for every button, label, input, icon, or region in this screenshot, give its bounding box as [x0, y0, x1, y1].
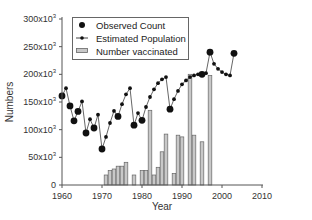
bar — [200, 142, 204, 185]
estimated-point — [144, 105, 148, 109]
chart: 196019701980199020002010 050x103100x1031… — [0, 0, 312, 220]
observed-point — [131, 122, 138, 129]
bar — [156, 167, 160, 185]
estimated-point — [96, 113, 100, 117]
estimated-point — [184, 79, 188, 83]
observed-point — [99, 146, 106, 153]
estimated-point — [224, 72, 228, 76]
bar — [124, 162, 128, 185]
y-axis-title: Numbers — [4, 82, 15, 123]
bar — [208, 75, 212, 185]
estimated-point — [148, 95, 152, 99]
bars-number-vaccinated — [104, 74, 212, 185]
estimated-point — [80, 100, 84, 104]
estimated-point — [120, 102, 124, 106]
x-axis-ticks: 196019701980199020002010 — [52, 185, 272, 201]
observed-point — [83, 130, 90, 137]
bar — [188, 74, 192, 185]
bar — [164, 134, 168, 185]
estimated-point — [164, 75, 168, 79]
bar — [104, 175, 108, 185]
observed-point — [67, 103, 74, 110]
legend-estimated-marker-icon — [80, 36, 84, 40]
x-tick-label: 1980 — [132, 191, 152, 201]
observed-point — [75, 108, 82, 115]
y-tick-label: 200x103 — [23, 68, 57, 79]
estimated-point — [136, 111, 140, 115]
x-tick-label: 1970 — [92, 191, 112, 201]
estimated-point — [64, 86, 68, 90]
bar — [172, 173, 176, 185]
estimated-point — [156, 81, 160, 85]
y-tick-label: 300x103 — [23, 13, 57, 24]
x-tick-label: 1960 — [52, 191, 72, 201]
estimated-point — [160, 77, 164, 81]
estimated-point — [176, 89, 180, 93]
bar — [160, 152, 164, 185]
bar — [148, 110, 152, 185]
estimated-point — [108, 121, 112, 125]
estimated-point — [192, 74, 196, 78]
legend: Observed Count Estimated Population Numb… — [73, 18, 189, 60]
bar — [120, 166, 124, 185]
estimated-point — [216, 67, 220, 71]
legend-label-estimated: Estimated Population — [96, 33, 186, 44]
y-tick-label: 50x103 — [28, 151, 57, 162]
bar — [180, 137, 184, 185]
legend-observed-marker-icon — [79, 22, 85, 28]
observed-point — [91, 125, 98, 132]
y-axis-ticks: 050x103100x103150x103200x103250x103300x1… — [23, 13, 62, 190]
x-tick-label: 2010 — [252, 191, 272, 201]
observed-point — [115, 113, 122, 120]
bar — [152, 175, 156, 185]
observed-point — [71, 117, 78, 124]
legend-label-vaccinated: Number vaccinated — [96, 46, 178, 57]
observed-point — [231, 50, 238, 57]
bar — [144, 171, 148, 185]
estimated-point — [124, 92, 128, 96]
estimated-point — [88, 117, 92, 121]
observed-point — [199, 71, 206, 78]
y-tick-label: 250x103 — [23, 41, 57, 52]
estimated-point — [212, 62, 216, 66]
estimated-point — [228, 74, 232, 78]
x-tick-label: 2000 — [212, 191, 232, 201]
estimated-point — [152, 87, 156, 91]
x-tick-label: 1990 — [172, 191, 192, 201]
observed-point — [207, 49, 214, 56]
estimated-point — [220, 70, 224, 74]
bar — [108, 171, 112, 185]
observed-point — [139, 117, 146, 124]
estimated-point — [104, 135, 108, 139]
bar — [112, 169, 116, 185]
legend-vaccinated-swatch-icon — [77, 49, 88, 53]
estimated-point — [180, 82, 184, 86]
bar — [116, 166, 120, 185]
estimated-point — [128, 86, 132, 90]
estimated-point — [112, 109, 116, 113]
bar — [176, 135, 180, 185]
observed-point — [167, 106, 174, 113]
x-axis-title: Year — [152, 201, 173, 212]
y-tick-label: 150x103 — [23, 96, 57, 107]
bar — [132, 175, 136, 185]
legend-label-observed: Observed Count — [96, 20, 166, 31]
y-tick-label: 100x103 — [23, 124, 57, 135]
estimated-point — [188, 75, 192, 79]
bar — [140, 171, 144, 185]
y-tick-label: 0 — [51, 180, 56, 190]
bar — [192, 135, 196, 185]
estimated-point — [172, 97, 176, 101]
